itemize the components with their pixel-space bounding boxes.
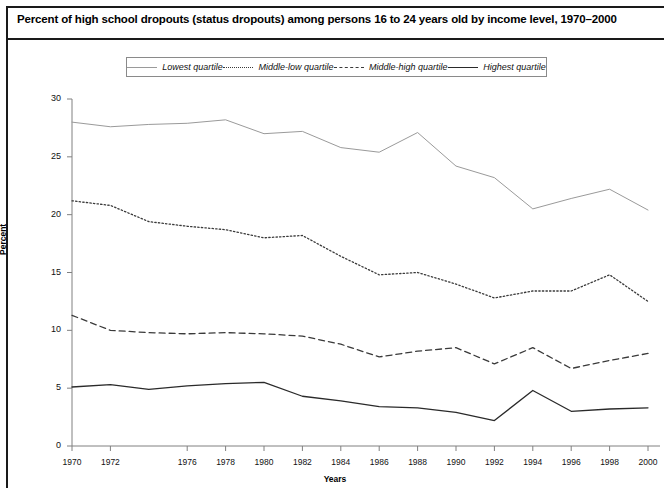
- y-axis-tick-label: 0: [35, 440, 61, 450]
- y-axis-tick-label: 15: [35, 267, 61, 277]
- x-axis-tick-label: 1994: [513, 457, 553, 467]
- legend-item-highest-quartile[interactable]: Highest quartile: [448, 62, 546, 72]
- y-axis-tick-label: 20: [35, 209, 61, 219]
- chart-legend: Lowest quartile Middle-low quartile Midd…: [126, 57, 547, 77]
- x-axis-tick-label: 1990: [436, 457, 476, 467]
- series-line-middle-high-quartile: [72, 315, 648, 368]
- x-axis-tick-label: 1970: [52, 457, 92, 467]
- x-axis-tick-label: 1982: [282, 457, 322, 467]
- y-axis-tick-label: 25: [35, 151, 61, 161]
- x-axis-tick-label: 1992: [474, 457, 514, 467]
- legend-label: Highest quartile: [483, 62, 546, 72]
- x-axis-tick-label: 1998: [590, 457, 630, 467]
- legend-item-lowest-quartile[interactable]: Lowest quartile: [127, 62, 223, 72]
- legend-line-icon-middle-high-quartile: [334, 63, 364, 72]
- x-axis-tick-label: 1984: [321, 457, 361, 467]
- x-axis-title: Years: [0, 474, 670, 484]
- series-line-highest-quartile: [72, 382, 648, 420]
- legend-label: Middle-high quartile: [369, 62, 448, 72]
- x-axis-tick-label: 1978: [206, 457, 246, 467]
- y-axis-tick-label: 10: [35, 324, 61, 334]
- legend-label: Middle-low quartile: [258, 62, 333, 72]
- x-axis-tick-label: 1986: [359, 457, 399, 467]
- x-axis-tick-label: 1988: [398, 457, 438, 467]
- legend-line-icon-lowest-quartile: [127, 63, 157, 72]
- series-line-middle-low-quartile: [72, 201, 648, 302]
- x-axis-tick-label: 1972: [90, 457, 130, 467]
- legend-label: Lowest quartile: [162, 62, 223, 72]
- y-axis-tick-label: 5: [35, 382, 61, 392]
- figure-title-rule: [6, 38, 664, 40]
- chart-figure: Percent of high school dropouts (status …: [0, 0, 670, 494]
- figure-border-top: [6, 6, 664, 8]
- x-axis-tick-label: 1980: [244, 457, 284, 467]
- legend-line-icon-highest-quartile: [448, 63, 478, 72]
- x-axis-tick-label: 1976: [167, 457, 207, 467]
- series-line-lowest-quartile: [72, 120, 648, 210]
- x-axis-tick-label: 1996: [551, 457, 591, 467]
- legend-item-middle-low-quartile[interactable]: Middle-low quartile: [223, 62, 333, 72]
- legend-line-icon-middle-low-quartile: [223, 63, 253, 72]
- y-axis-tick-label: 30: [35, 93, 61, 103]
- legend-item-middle-high-quartile[interactable]: Middle-high quartile: [334, 62, 448, 72]
- page-title: Percent of high school dropouts (status …: [17, 13, 617, 25]
- x-axis-tick-label: 2000: [628, 457, 668, 467]
- figure-border-left: [6, 6, 8, 488]
